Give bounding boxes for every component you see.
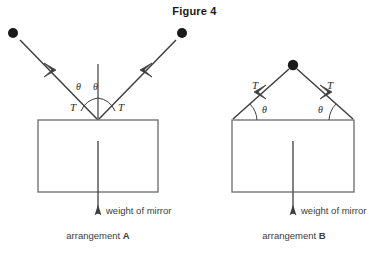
string-right-b — [297, 69, 353, 119]
string-left-b — [233, 69, 289, 119]
string-left-a — [20, 40, 97, 119]
anchor-dot-right-a — [177, 28, 187, 38]
caption-arrangement-a: arrangement A — [38, 230, 158, 241]
string-right-a — [99, 40, 176, 119]
arrangement-b-group — [232, 60, 354, 214]
caption-letter-a: A — [123, 230, 130, 241]
apex-dot-b — [288, 60, 298, 70]
angle-arc-right-b — [329, 104, 336, 120]
angle-label-right-b: θ — [318, 104, 323, 115]
caption-letter-b: B — [319, 230, 326, 241]
angle-label-left-a: θ — [76, 81, 81, 92]
angle-label-right-a: θ — [93, 81, 98, 92]
tension-label-left-a: T — [70, 101, 76, 113]
arrangement-a-group — [8, 28, 187, 214]
figure-4-diagram: Figure 4 — [0, 0, 389, 260]
caption-arrangement-b: arrangement B — [233, 230, 355, 241]
tension-label-right-a: T — [118, 101, 124, 113]
caption-prefix-b: arrangement — [262, 230, 316, 241]
diagram-canvas — [0, 0, 389, 260]
weight-label-a: weight of mirror — [106, 205, 171, 216]
angle-label-left-b: θ — [262, 104, 267, 115]
tension-label-right-b: T — [327, 79, 333, 91]
tension-label-left-b: T — [252, 79, 258, 91]
angle-arc-left-b — [250, 104, 257, 120]
caption-prefix-a: arrangement — [66, 230, 120, 241]
weight-label-b: weight of mirror — [301, 205, 366, 216]
anchor-dot-left-a — [8, 28, 18, 38]
